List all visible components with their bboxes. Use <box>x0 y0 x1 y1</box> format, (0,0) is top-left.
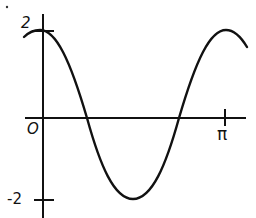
x-label-pi: π <box>217 126 227 143</box>
stray-dot <box>6 6 8 8</box>
y-label-2: 2 <box>21 16 31 31</box>
origin-label: O <box>27 122 39 137</box>
y-label-neg2: -2 <box>7 192 22 207</box>
cosine-graph <box>0 0 256 218</box>
cosine-curve <box>24 30 247 199</box>
